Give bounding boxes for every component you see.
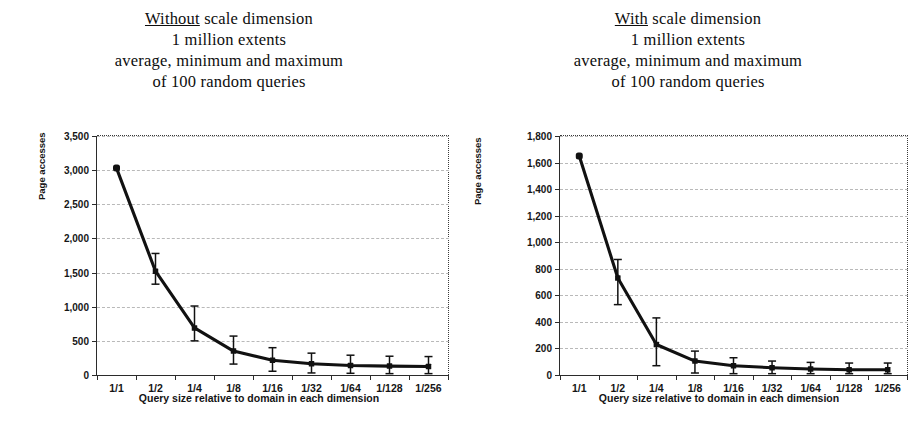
- x-axis-tick: [175, 375, 176, 380]
- x-axis-tick: [292, 375, 293, 380]
- data-series-without-scale-dimension: [97, 136, 448, 375]
- y-axis-label: 2,000: [43, 233, 89, 244]
- data-point-marker: [692, 358, 698, 364]
- chart-title-left-line1-rest: scale dimension: [200, 9, 313, 28]
- x-axis-title-right: Query size relative to domain in each di…: [459, 392, 917, 404]
- x-axis-tick: [830, 375, 831, 380]
- chart-title-right-line3: average, minimum and maximum: [459, 50, 917, 71]
- chart-title-left-line4: of 100 random queries: [0, 71, 458, 92]
- chart-title-right: With scale dimension 1 million extents a…: [459, 8, 917, 92]
- x-axis-tick: [370, 375, 371, 380]
- data-point-marker: [348, 363, 354, 369]
- x-axis-tick: [97, 375, 98, 380]
- y-axis-label: 800: [506, 263, 552, 274]
- x-axis-tick: [868, 375, 869, 380]
- series-line: [579, 156, 887, 370]
- x-axis-tick: [409, 375, 410, 380]
- chart-right: 02004006008001,0001,2001,4001,6001,8001/…: [459, 124, 917, 424]
- plot-frame-right-right: [907, 135, 908, 375]
- x-axis-tick: [253, 375, 254, 380]
- chart-title-left-line3: average, minimum and maximum: [0, 50, 458, 71]
- y-axis-label: 2,500: [43, 199, 89, 210]
- figure-container: Without scale dimension 1 million extent…: [0, 0, 917, 445]
- y-axis-label: 1,400: [506, 184, 552, 195]
- data-point-marker: [808, 366, 814, 372]
- x-axis-tick: [599, 375, 600, 380]
- x-axis-tick: [331, 375, 332, 380]
- chart-panel-without-scale-dimension: Without scale dimension 1 million extent…: [0, 0, 458, 445]
- x-axis-tick: [791, 375, 792, 380]
- y-axis-label: 600: [506, 290, 552, 301]
- y-axis-label: 200: [506, 343, 552, 354]
- x-axis-title-left: Query size relative to domain in each di…: [0, 392, 458, 404]
- data-point-marker: [270, 358, 276, 364]
- x-axis-tick: [214, 375, 215, 380]
- series-line: [117, 168, 429, 366]
- y-axis-label: 1,000: [43, 301, 89, 312]
- x-axis-tick: [136, 375, 137, 380]
- data-point-marker: [769, 365, 775, 371]
- data-point-marker: [654, 342, 660, 348]
- y-axis-label: 0: [506, 370, 552, 381]
- y-axis-label: 1,800: [506, 131, 552, 142]
- x-axis-tick: [560, 375, 561, 380]
- chart-title-right-line1-underlined: With: [615, 9, 648, 28]
- plot-area-right: 02004006008001,0001,2001,4001,6001,8001/…: [559, 136, 907, 376]
- x-axis-tick: [676, 375, 677, 380]
- y-axis-label: 1,000: [506, 237, 552, 248]
- data-point-marker: [192, 325, 198, 331]
- y-axis-title-right: Page accesses: [472, 137, 483, 205]
- data-point-marker: [615, 275, 621, 281]
- y-axis-label: 3,500: [43, 131, 89, 142]
- y-axis-label: 400: [506, 316, 552, 327]
- x-axis-tick: [448, 375, 449, 380]
- data-point-marker: [231, 348, 237, 354]
- plot-area-left: 05001,0001,5002,0002,5003,0003,5001/11/2…: [96, 136, 448, 376]
- x-axis-tick: [753, 375, 754, 380]
- data-point-marker: [387, 363, 393, 369]
- chart-title-right-line2: 1 million extents: [459, 29, 917, 50]
- chart-title-left: Without scale dimension 1 million extent…: [0, 8, 458, 92]
- chart-title-left-line2: 1 million extents: [0, 29, 458, 50]
- data-point-marker: [576, 152, 583, 159]
- data-point-marker: [885, 367, 891, 373]
- data-point-marker: [309, 361, 315, 367]
- chart-title-left-line1-underlined: Without: [145, 9, 200, 28]
- data-point-marker: [731, 363, 737, 369]
- data-point-marker: [153, 268, 159, 274]
- data-point-marker: [113, 165, 120, 172]
- y-axis-label: 1,500: [43, 267, 89, 278]
- chart-title-right-line4: of 100 random queries: [459, 71, 917, 92]
- y-axis-label: 3,000: [43, 165, 89, 176]
- y-axis-label: 0: [43, 370, 89, 381]
- y-axis-label: 1,200: [506, 210, 552, 221]
- data-series-with-scale-dimension: [560, 136, 907, 375]
- x-axis-tick: [714, 375, 715, 380]
- data-point-marker: [846, 367, 852, 373]
- x-axis-tick: [637, 375, 638, 380]
- data-point-marker: [426, 364, 432, 370]
- x-axis-tick: [907, 375, 908, 380]
- y-axis-label: 1,600: [506, 157, 552, 168]
- chart-title-right-line1-rest: scale dimension: [648, 9, 761, 28]
- chart-panel-with-scale-dimension: With scale dimension 1 million extents a…: [459, 0, 917, 445]
- y-axis-label: 500: [43, 335, 89, 346]
- chart-left: 05001,0001,5002,0002,5003,0003,5001/11/2…: [0, 124, 458, 424]
